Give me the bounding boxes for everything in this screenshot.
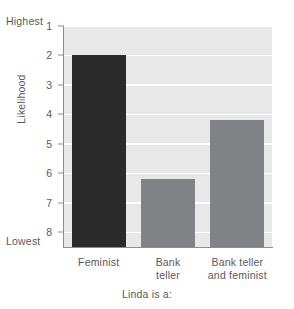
y-tick-label: 5	[46, 139, 52, 149]
x-axis-spine	[63, 247, 273, 248]
bar-bank-teller-and-feminist	[210, 120, 264, 247]
y-tick-label: 7	[46, 198, 52, 208]
y-tick-label: 2	[46, 50, 52, 60]
x-category-label: Bank teller and feminist	[182, 256, 292, 281]
likelihood-bar-chart: Highest Lowest Likelihood 12345678 Linda…	[0, 0, 294, 309]
gridline	[64, 25, 272, 27]
y-tick-label: 4	[46, 109, 52, 119]
bar-feminist	[72, 55, 126, 247]
x-axis-title: Linda is a:	[0, 288, 294, 300]
y-tick-label: 1	[46, 21, 52, 31]
plot-area	[64, 26, 272, 247]
y-tick-label: 6	[46, 168, 52, 178]
bar-bank-teller	[141, 179, 195, 247]
y-tick-label: 3	[46, 80, 52, 90]
y-tick-label: 8	[46, 227, 52, 237]
